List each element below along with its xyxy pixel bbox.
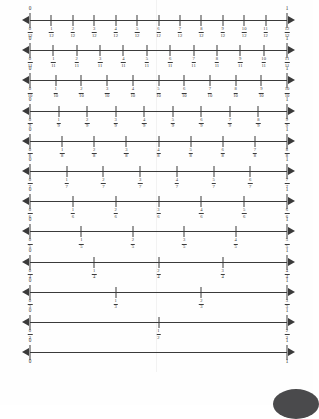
tick-mark xyxy=(115,106,116,117)
tick-mark xyxy=(146,45,147,56)
tick-mark xyxy=(132,75,133,86)
number-line-row-sevenths: 007172737475767177 xyxy=(0,155,313,189)
fraction-numerator: 10 xyxy=(261,57,266,62)
fraction-numerator: 3 xyxy=(182,238,187,243)
tick-mark xyxy=(81,226,82,237)
tick-mark xyxy=(87,106,88,117)
tick-mark xyxy=(176,166,177,177)
endpoint-label-one: 1 xyxy=(286,248,289,253)
fraction-numerator: 3 xyxy=(138,178,143,183)
tick-mark xyxy=(72,196,73,207)
number-line-row-ninths: 0091929394959697989199 xyxy=(0,95,313,129)
arrow-right-icon xyxy=(288,16,295,24)
fraction-numerator: 5 xyxy=(171,118,176,123)
tick-mark xyxy=(94,15,95,26)
endpoint-label-zero: 0 xyxy=(29,308,32,313)
fraction-numerator: 7 xyxy=(178,27,183,32)
endpoint-label-one: 1 xyxy=(286,66,289,71)
endpoint-label-one: 1 xyxy=(286,36,289,41)
endpoint-label-zero: 0 xyxy=(29,36,32,41)
arrow-left-icon xyxy=(22,197,29,205)
fraction-numerator: 7 xyxy=(285,178,290,183)
fraction-numerator: 0 xyxy=(28,178,33,183)
tick-mark xyxy=(222,136,223,147)
tick-mark xyxy=(261,75,262,86)
endpoint-label-one: 1 xyxy=(286,97,289,102)
fraction-numerator: 1 xyxy=(49,27,54,32)
number-line-axis xyxy=(30,171,287,172)
tick-mark xyxy=(222,15,223,26)
tick-mark xyxy=(115,196,116,207)
fraction-numerator: 4 xyxy=(175,178,180,183)
arrow-left-icon xyxy=(22,318,29,326)
number-line-row-tenths: 001011021031041051061071081091011010 xyxy=(0,64,313,98)
fraction-numerator: 6 xyxy=(285,208,290,213)
fraction-numerator: 1 xyxy=(79,238,84,243)
fraction-numerator: 2 xyxy=(113,208,118,213)
arrow-right-icon xyxy=(288,107,295,115)
fraction-numerator: 7 xyxy=(208,87,213,92)
fraction-numerator: 2 xyxy=(131,238,136,243)
endpoint-label-zero: 0 xyxy=(29,278,32,283)
tick-mark xyxy=(158,257,159,268)
endpoint-label-one: 1 xyxy=(286,217,289,222)
tick-mark xyxy=(254,136,255,147)
fraction-numerator: 1 xyxy=(113,299,118,304)
number-line-row-fourths: 004142434144 xyxy=(0,246,313,280)
endpoint-label-one: 1 xyxy=(286,187,289,192)
number-line-row-twelfths: 0012112212312412512612712812912101211121… xyxy=(0,4,313,38)
tick-mark xyxy=(244,15,245,26)
tick-mark xyxy=(229,106,230,117)
fraction-numerator: 0 xyxy=(28,329,33,334)
endpoint-label-one: 1 xyxy=(286,338,289,343)
tick-mark xyxy=(235,226,236,237)
number-line-row-sixths: 0061626364656166 xyxy=(0,185,313,219)
tick-mark xyxy=(258,106,259,117)
fraction-numerator: 5 xyxy=(145,57,150,62)
fraction-numerator: 2 xyxy=(92,148,97,153)
fraction-numerator: 0 xyxy=(28,208,33,213)
arrow-right-icon xyxy=(288,288,295,296)
tick-mark xyxy=(240,45,241,56)
fraction-numerator: 0 xyxy=(28,118,33,123)
endpoint-label-zero: 0 xyxy=(29,66,32,71)
tick-mark xyxy=(100,45,101,56)
endpoint-label-zero: 0 xyxy=(29,97,32,102)
endpoint-label-one: 1 xyxy=(286,6,289,11)
tick-mark xyxy=(115,15,116,26)
number-line-axis xyxy=(30,50,287,51)
number-line-axis xyxy=(30,352,287,353)
fraction-numerator: 6 xyxy=(199,118,204,123)
fraction-numerator: 1 xyxy=(51,57,56,62)
arrow-left-icon xyxy=(22,288,29,296)
arrow-left-icon xyxy=(22,137,29,145)
tick-mark xyxy=(158,136,159,147)
fraction-numerator: 6 xyxy=(156,27,161,32)
fraction-numerator: 3 xyxy=(156,208,161,213)
fraction-numerator: 4 xyxy=(131,87,136,92)
fraction-numerator: 6 xyxy=(168,57,173,62)
fraction-numerator: 3 xyxy=(98,57,103,62)
fraction-numerator: 1 xyxy=(60,148,65,153)
endpoint-label-zero: 0 xyxy=(29,6,32,11)
fraction-numerator: 6 xyxy=(182,87,187,92)
fraction-numerator: 5 xyxy=(211,178,216,183)
fraction-numerator: 12 xyxy=(285,27,290,32)
fraction-numerator: 9 xyxy=(285,118,290,123)
number-line-row-whole: 0011 xyxy=(0,336,313,370)
tick-mark xyxy=(115,287,116,298)
fraction-numerator: 3 xyxy=(113,118,118,123)
corner-artifact xyxy=(273,389,319,419)
tick-mark xyxy=(201,15,202,26)
tick-mark xyxy=(62,136,63,147)
tick-mark xyxy=(184,226,185,237)
arrow-left-icon xyxy=(22,107,29,115)
tick-mark xyxy=(158,15,159,26)
tick-mark xyxy=(137,15,138,26)
tick-mark xyxy=(58,106,59,117)
fraction-numerator: 7 xyxy=(253,148,258,153)
tick-mark xyxy=(244,196,245,207)
arrow-left-icon xyxy=(22,76,29,84)
